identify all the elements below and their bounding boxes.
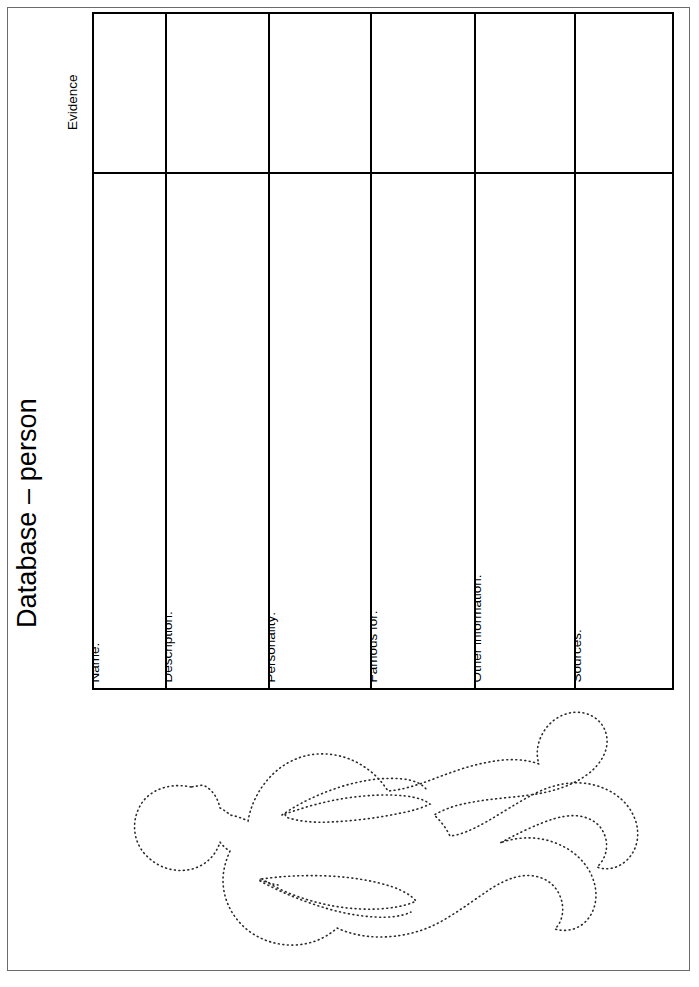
person-lower-arm-tip-line bbox=[260, 880, 278, 885]
evidence-cell-famous-for[interactable] bbox=[372, 14, 474, 174]
field-label-other-information: Other information: bbox=[476, 574, 483, 682]
table-column-description: Description: bbox=[167, 14, 270, 688]
evidence-cell-name[interactable] bbox=[94, 14, 165, 174]
evidence-header-label: Evidence bbox=[66, 74, 80, 130]
table-column-name: Name: bbox=[94, 14, 167, 688]
database-table: Name: Description: Personality: bbox=[92, 12, 674, 690]
field-label-name: Name: bbox=[94, 642, 101, 682]
field-cell-personality[interactable]: Personality: bbox=[270, 174, 370, 688]
evidence-cell-sources[interactable] bbox=[576, 14, 672, 174]
table-column-famous-for: Famous for: bbox=[372, 14, 476, 688]
person-body-outline bbox=[135, 712, 638, 945]
footer-note bbox=[300, 976, 699, 987]
table-column-other-information: Other information: bbox=[476, 14, 576, 688]
table-column-sources: Sources: bbox=[576, 14, 672, 688]
field-label-personality: Personality: bbox=[270, 611, 277, 682]
field-label-personality-text: Personality: bbox=[270, 611, 277, 682]
field-label-famous-for-text: Famous for: bbox=[372, 610, 379, 682]
field-cell-name[interactable]: Name: bbox=[94, 174, 165, 688]
field-label-other-information-text: Other information: bbox=[476, 574, 483, 682]
evidence-header-text: Evidence bbox=[66, 74, 80, 130]
person-upper-arm-inner-line bbox=[285, 795, 430, 822]
dotted-person-outline-figure bbox=[60, 694, 685, 964]
table-column-personality: Personality: bbox=[270, 14, 372, 688]
field-cell-sources[interactable]: Sources: bbox=[576, 174, 672, 688]
field-cell-famous-for[interactable]: Famous for: bbox=[372, 174, 474, 688]
field-label-sources: Sources: bbox=[576, 629, 583, 682]
person-lower-arm-fold-line bbox=[260, 881, 411, 917]
field-label-name-text: Name: bbox=[94, 642, 101, 682]
field-label-sources-text: Sources: bbox=[576, 629, 583, 682]
evidence-cell-personality[interactable] bbox=[270, 14, 370, 174]
evidence-cell-description[interactable] bbox=[167, 14, 268, 174]
field-label-description: Description: bbox=[167, 611, 174, 682]
evidence-cell-other-information[interactable] bbox=[476, 14, 574, 174]
field-cell-description[interactable]: Description: bbox=[167, 174, 268, 688]
page-title-text: Database – person bbox=[14, 398, 41, 628]
field-label-famous-for: Famous for: bbox=[372, 610, 379, 682]
field-label-description-text: Description: bbox=[167, 611, 174, 682]
field-cell-other-information[interactable]: Other information: bbox=[476, 174, 574, 688]
worksheet-page: Database – person Evidence Name: Descrip… bbox=[0, 0, 699, 987]
page-title: Database – person bbox=[14, 398, 41, 628]
